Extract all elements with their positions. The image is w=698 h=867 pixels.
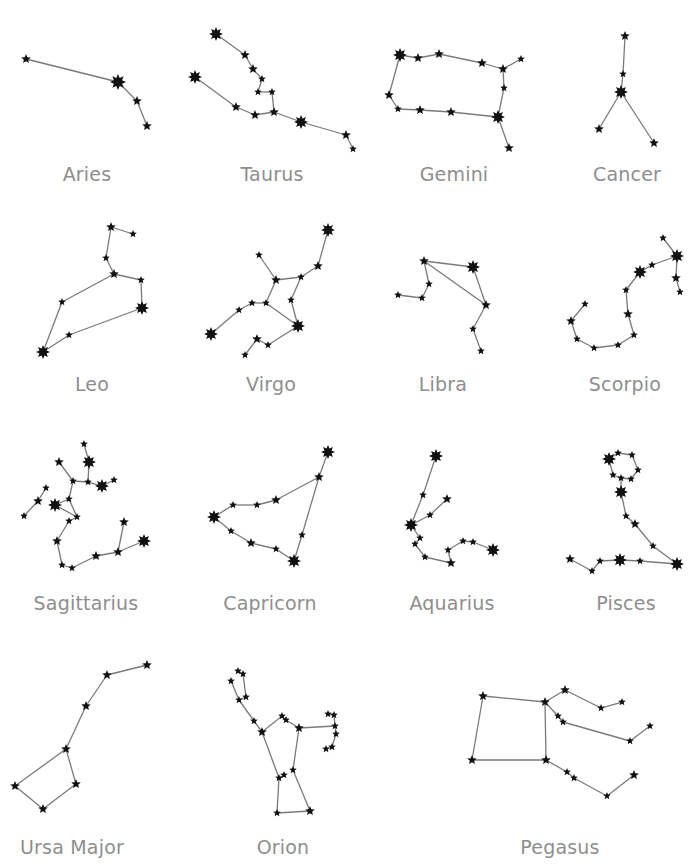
connector-line — [66, 706, 86, 749]
star-icon — [271, 275, 281, 284]
star-icon — [481, 300, 491, 309]
star-icon — [341, 130, 351, 139]
star-icon — [609, 471, 617, 478]
label-cancer: Cancer — [593, 163, 661, 185]
constellation-libra — [394, 256, 491, 354]
star-icon — [618, 698, 626, 705]
star-icon — [633, 265, 647, 279]
star-icon — [314, 472, 324, 481]
star-icon — [671, 273, 681, 282]
connector-line — [439, 54, 482, 63]
star-icon — [102, 254, 110, 261]
label-orion: Orion — [257, 836, 310, 858]
label-gemini: Gemini — [420, 163, 489, 185]
label-pegasus: Pegasus — [520, 836, 599, 858]
connector-line — [483, 696, 545, 702]
star-icon — [419, 491, 427, 498]
star-icon — [429, 449, 443, 463]
star-icon — [240, 50, 250, 59]
star-icon — [48, 498, 62, 512]
label-virgo: Virgo — [246, 373, 296, 395]
connector-line — [57, 521, 69, 541]
connector-line — [546, 760, 567, 772]
label-leo: Leo — [75, 373, 109, 395]
connector-line — [574, 778, 607, 796]
star-icon — [614, 85, 628, 99]
label-libra: Libra — [419, 373, 467, 395]
connector-line — [43, 784, 76, 809]
star-icon — [273, 809, 281, 816]
star-icon — [287, 554, 301, 568]
star-icon — [58, 298, 66, 305]
star-icon — [590, 344, 598, 351]
star-icon — [235, 696, 243, 703]
connector-line — [86, 675, 107, 706]
connector-line — [420, 110, 451, 112]
label-scorpio: Scorpio — [589, 373, 661, 395]
connector-line — [114, 274, 141, 280]
star-icon — [565, 554, 575, 563]
connector-line — [66, 749, 76, 784]
constellation-aries — [21, 54, 152, 130]
star-icon — [393, 48, 407, 62]
star-icon — [581, 300, 589, 307]
connector-line — [291, 277, 301, 300]
star-icon — [466, 260, 480, 274]
connector-line — [43, 302, 62, 352]
label-capricorn: Capricorn — [223, 592, 316, 614]
star-icon — [227, 677, 235, 684]
connector-line — [72, 556, 96, 568]
star-icon — [73, 513, 81, 520]
connector-line — [268, 326, 298, 345]
star-icon — [110, 476, 118, 483]
connector-line — [26, 59, 118, 82]
connector-line — [216, 34, 245, 55]
star-icon — [659, 234, 667, 241]
star-icon — [289, 766, 297, 773]
star-icon — [269, 107, 279, 116]
star-icon — [129, 230, 137, 237]
connector-line — [118, 541, 144, 552]
connector-line — [628, 314, 634, 335]
star-icon — [102, 670, 112, 679]
star-icon — [469, 325, 477, 332]
star-icon — [321, 223, 335, 237]
connector-line — [137, 101, 147, 126]
star-icon — [65, 517, 73, 524]
star-icon — [58, 561, 66, 568]
constellation-cancer — [594, 31, 659, 147]
connector-line — [545, 690, 565, 702]
connector-line — [607, 775, 634, 796]
star-icon — [541, 755, 551, 764]
connector-line — [15, 749, 66, 786]
constellation-gemini — [384, 48, 525, 152]
star-icon — [636, 557, 644, 564]
star-icon — [573, 335, 581, 342]
star-icon — [81, 701, 91, 710]
star-icon — [142, 660, 152, 669]
connector-line — [599, 92, 621, 129]
star-icon — [594, 124, 604, 133]
connector-line — [473, 267, 486, 305]
label-aries: Aries — [63, 163, 112, 185]
star-icon — [634, 466, 642, 473]
connector-line — [195, 77, 236, 107]
connector-line — [411, 495, 423, 525]
star-icon — [614, 485, 628, 499]
star-icon — [469, 538, 477, 545]
connector-line — [277, 811, 310, 813]
star-icon — [204, 327, 218, 341]
star-icon — [623, 309, 633, 318]
connector-line — [389, 55, 400, 95]
connector-line — [243, 674, 246, 697]
star-icon — [415, 105, 425, 114]
star-icon — [294, 115, 308, 129]
connector-line — [430, 499, 447, 515]
label-ursa-major: Ursa Major — [20, 836, 124, 858]
star-icon — [467, 755, 477, 764]
star-icon — [291, 319, 305, 333]
connector-line — [563, 722, 630, 741]
connector-line — [473, 329, 481, 351]
connector-line — [472, 696, 483, 760]
connector-line — [293, 770, 310, 811]
